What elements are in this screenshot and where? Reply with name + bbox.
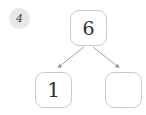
step-number-badge: 4 [9,8,30,29]
step-number-badge-label: 4 [16,13,23,24]
number-box-part-left-value: 1 [47,80,60,100]
number-box-whole-value: 6 [82,19,94,38]
number-box-whole[interactable]: 6 [70,10,107,46]
number-box-part-left[interactable]: 1 [35,72,72,108]
connector-root-to-right [93,47,119,68]
number-bond-diagram: 4 6 1 [0,0,146,115]
number-box-part-right[interactable] [105,72,142,108]
connector-root-to-left [58,47,84,68]
